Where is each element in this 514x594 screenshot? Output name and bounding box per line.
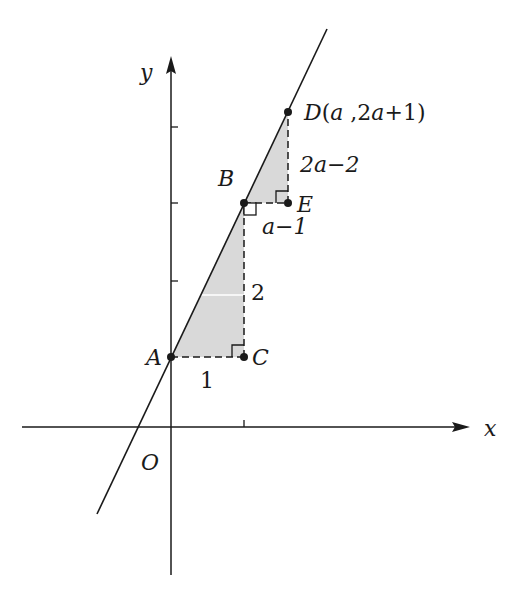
point-b <box>240 199 248 207</box>
coordinate-diagram: y x O A C B E D(a ,2a+1) 1 2 a−1 2a−2 <box>0 0 514 594</box>
label-d-paren-open: ( <box>322 100 331 125</box>
point-e <box>284 199 292 207</box>
label-be-length: a−1 <box>262 214 308 239</box>
line-ad <box>97 29 327 514</box>
label-d-coord: D(a ,2a+1) <box>303 100 425 125</box>
point-a <box>167 353 175 361</box>
point-d <box>284 108 292 116</box>
origin-label: O <box>141 450 159 475</box>
label-d-a: a <box>330 100 343 125</box>
x-axis-label: x <box>484 416 497 441</box>
point-c <box>240 353 248 361</box>
label-d-rest: +1) <box>384 100 425 125</box>
label-a: A <box>144 345 162 370</box>
y-axis-label: y <box>139 60 153 85</box>
label-d: D <box>303 100 322 125</box>
label-d-sep: ,2 <box>343 100 371 125</box>
label-c: C <box>252 345 269 370</box>
label-d-a2: a <box>371 100 384 125</box>
label-ac-length: 1 <box>200 368 214 393</box>
label-de-length: 2a−2 <box>299 152 360 177</box>
label-bc-length: 2 <box>251 280 265 305</box>
label-b: B <box>217 166 234 191</box>
